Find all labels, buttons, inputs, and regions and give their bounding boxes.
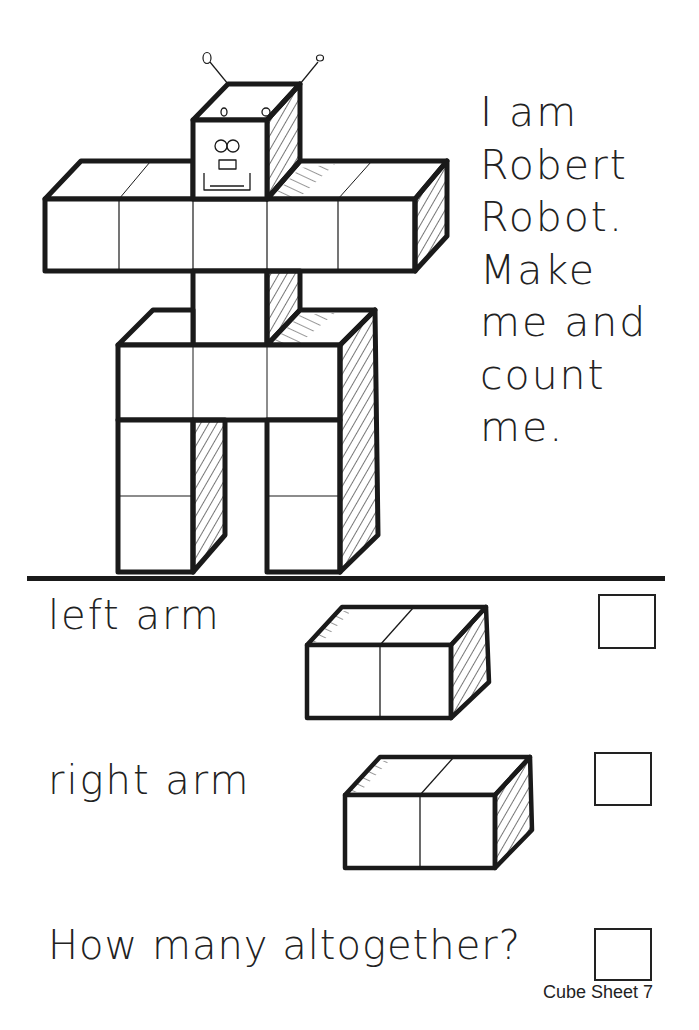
arms-front	[45, 199, 415, 271]
left-arm-cubes-illustration	[300, 600, 495, 725]
antenna-left	[203, 53, 228, 85]
left-leg-side	[193, 420, 225, 572]
body-right-side	[340, 310, 378, 572]
divider-line	[27, 576, 665, 581]
intro-text: I am Robert Robot. Make me and count me.	[480, 86, 647, 454]
left-arm-answer-box[interactable]	[598, 594, 656, 649]
right-arm-cubes-illustration	[340, 750, 535, 875]
right-arm-label: right arm	[48, 757, 251, 803]
total-question-label: How many altogether?	[48, 922, 521, 968]
antenna-right	[300, 55, 324, 84]
hips-front	[118, 345, 340, 420]
total-answer-box[interactable]	[594, 928, 652, 981]
right-arm-answer-box[interactable]	[594, 752, 652, 806]
arms-top-face	[45, 161, 193, 199]
sheet-footer: Cube Sheet 7	[543, 982, 653, 1003]
neck-front	[193, 271, 267, 345]
left-arm-label: left arm	[48, 592, 221, 638]
hips-top-left	[118, 310, 193, 345]
